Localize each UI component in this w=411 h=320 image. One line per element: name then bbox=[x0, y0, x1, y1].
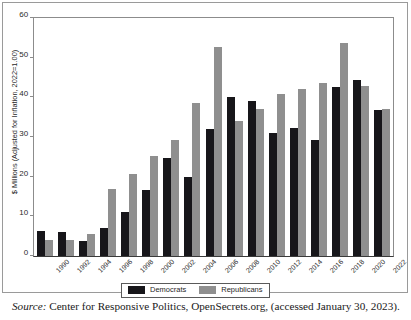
x-axis-tick-label: 2012 bbox=[286, 258, 302, 274]
bar-group bbox=[311, 18, 327, 256]
y-axis-title: $ Millions (Adjusted for Inflation, 2022… bbox=[11, 14, 19, 230]
bar-republicans-2016 bbox=[319, 83, 327, 256]
y-axis: 0102030405060 $ Millions (Adjusted for I… bbox=[0, 0, 33, 256]
x-axis-tick-label: 2014 bbox=[308, 258, 324, 274]
bar-group bbox=[79, 18, 95, 256]
x-axis-tick-label: 2016 bbox=[329, 258, 345, 274]
bar-republicans-1996 bbox=[108, 189, 116, 256]
bar-republicans-2022 bbox=[382, 109, 390, 256]
bar-group bbox=[332, 18, 348, 256]
bar-group bbox=[37, 18, 53, 256]
bar-group bbox=[163, 18, 179, 256]
x-axis-tick-label: 2008 bbox=[244, 258, 260, 274]
figure-container: 0102030405060 $ Millions (Adjusted for I… bbox=[0, 0, 411, 320]
bar-democrats-2002 bbox=[163, 158, 171, 256]
bar-republicans-1998 bbox=[129, 174, 137, 256]
bar-republicans-1990 bbox=[45, 240, 53, 256]
bar-group bbox=[290, 18, 306, 256]
bar-democrats-2020 bbox=[353, 80, 361, 256]
bar-group bbox=[227, 18, 243, 256]
x-axis-tick-label: 1992 bbox=[75, 258, 91, 274]
x-axis-tick-label: 2002 bbox=[181, 258, 197, 274]
bar-democrats-1992 bbox=[58, 232, 66, 256]
bar-democrats-2012 bbox=[269, 133, 277, 256]
bar-group bbox=[58, 18, 74, 256]
bar-democrats-2004 bbox=[184, 177, 192, 256]
bar-democrats-2022 bbox=[374, 110, 382, 256]
bar-group bbox=[206, 18, 222, 256]
y-axis-tick-label: 0 bbox=[24, 249, 28, 257]
bar-republicans-1994 bbox=[87, 234, 95, 256]
bar-group bbox=[100, 18, 116, 256]
bar-republicans-1992 bbox=[66, 240, 74, 256]
bar-democrats-2008 bbox=[227, 97, 235, 256]
bar-group bbox=[121, 18, 137, 256]
bar-democrats-2016 bbox=[311, 140, 319, 256]
y-axis-tick-label: 30 bbox=[19, 130, 28, 138]
bar-republicans-2020 bbox=[361, 86, 369, 256]
bar-group bbox=[353, 18, 369, 256]
y-axis-tick-label: 40 bbox=[19, 90, 28, 98]
bar-group bbox=[142, 18, 158, 256]
bar-democrats-1994 bbox=[79, 241, 87, 256]
bar-republicans-2014 bbox=[298, 89, 306, 256]
bar-democrats-1998 bbox=[121, 212, 129, 256]
y-axis-tick-label: 10 bbox=[19, 209, 28, 217]
source-note: Source: Center for Responsive Politics, … bbox=[12, 300, 408, 313]
x-axis-tick-label: 2010 bbox=[265, 258, 281, 274]
x-axis-tick-label: 2018 bbox=[350, 258, 366, 274]
bar-republicans-2008 bbox=[235, 121, 243, 256]
y-axis-tick-label: 50 bbox=[19, 51, 28, 59]
bar-democrats-1990 bbox=[37, 231, 45, 256]
bar-democrats-2000 bbox=[142, 190, 150, 256]
bar-democrats-2014 bbox=[290, 128, 298, 256]
x-axis-tick-label: 2000 bbox=[160, 258, 176, 274]
x-axis-tick-label: 2006 bbox=[223, 258, 239, 274]
x-axis-tick-label: 2004 bbox=[202, 258, 218, 274]
legend-label-republicans: Republicans bbox=[221, 286, 262, 294]
bar-democrats-2006 bbox=[206, 129, 214, 256]
bar-republicans-2012 bbox=[277, 94, 285, 256]
x-axis-tick-label: 2020 bbox=[371, 258, 387, 274]
bar-group bbox=[184, 18, 200, 256]
y-axis-tick-label: 60 bbox=[19, 11, 28, 19]
bar-republicans-2002 bbox=[171, 140, 179, 256]
bar-democrats-1996 bbox=[100, 228, 108, 256]
legend-entry-democrats: Democrats bbox=[128, 286, 186, 294]
bar-democrats-2018 bbox=[332, 87, 340, 256]
source-label: Source: bbox=[12, 300, 46, 312]
x-axis: 1990199219941996199820002002200420062008… bbox=[33, 256, 393, 286]
bar-republicans-2006 bbox=[214, 47, 222, 256]
bar-republicans-2004 bbox=[192, 103, 200, 256]
bars-layer bbox=[34, 18, 393, 256]
bar-group bbox=[374, 18, 390, 256]
legend-entry-republicans: Republicans bbox=[199, 286, 262, 294]
bar-republicans-2000 bbox=[150, 156, 158, 256]
bar-group bbox=[269, 18, 285, 256]
x-axis-tick-label: 1994 bbox=[96, 258, 112, 274]
legend-swatch-democrats bbox=[128, 286, 145, 294]
bar-republicans-2018 bbox=[340, 43, 348, 256]
source-text: Center for Responsive Politics, OpenSecr… bbox=[46, 300, 399, 312]
bar-democrats-2010 bbox=[248, 101, 256, 256]
y-axis-tick-label: 20 bbox=[19, 170, 28, 178]
bar-republicans-2010 bbox=[256, 109, 264, 256]
x-axis-tick-label: 1998 bbox=[139, 258, 155, 274]
x-axis-tick-label: 1990 bbox=[54, 258, 70, 274]
legend-label-democrats: Democrats bbox=[150, 286, 186, 294]
plot-area bbox=[33, 17, 394, 257]
chart-legend: DemocratsRepublicans bbox=[121, 283, 270, 298]
legend-swatch-republicans bbox=[199, 286, 216, 294]
x-axis-tick-label: 1996 bbox=[117, 258, 133, 274]
bar-group bbox=[248, 18, 264, 256]
